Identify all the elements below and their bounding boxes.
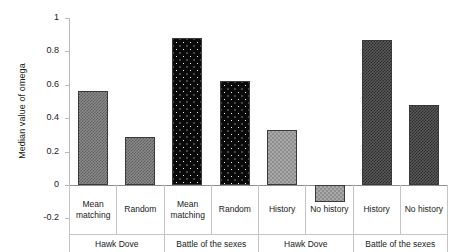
group-label: Hawk Dove xyxy=(69,235,164,252)
category-label: Random xyxy=(116,185,163,235)
bar xyxy=(125,137,155,185)
category-label: No history xyxy=(400,185,448,235)
category-label-row: Mean matchingRandomMean matchingRandomHi… xyxy=(69,185,448,235)
group-label: Battle of the sexes xyxy=(164,235,259,252)
bar xyxy=(78,91,108,185)
group-label: Hawk Dove xyxy=(258,235,353,252)
group-label: Battle of the sexes xyxy=(353,235,449,252)
bar xyxy=(220,81,250,185)
y-tick-label: 0 xyxy=(54,179,59,189)
category-label: No history xyxy=(305,185,352,235)
y-axis-title: Median value of omega xyxy=(17,31,27,191)
y-tick-label: 1 xyxy=(54,12,59,22)
y-tick-label: -0.2 xyxy=(43,212,59,222)
group-label-row: Hawk DoveBattle of the sexesHawk DoveBat… xyxy=(69,235,448,252)
bar xyxy=(362,40,392,185)
y-tick-label: 0.2 xyxy=(46,146,59,156)
y-tick-label: 0.8 xyxy=(46,45,59,55)
bar xyxy=(409,105,439,185)
category-label: History xyxy=(353,185,400,235)
plot-area xyxy=(69,18,448,185)
category-label: Mean matching xyxy=(69,185,116,235)
bar xyxy=(267,130,297,185)
category-label: Random xyxy=(211,185,258,235)
category-label: History xyxy=(258,185,305,235)
y-tick-label: 0.6 xyxy=(46,79,59,89)
bar xyxy=(172,38,202,185)
category-label: Mean matching xyxy=(164,185,211,235)
bar-chart: Median value of omega 10.80.60.40.20-0.2… xyxy=(0,0,457,252)
y-tick-label: 0.4 xyxy=(46,112,59,122)
